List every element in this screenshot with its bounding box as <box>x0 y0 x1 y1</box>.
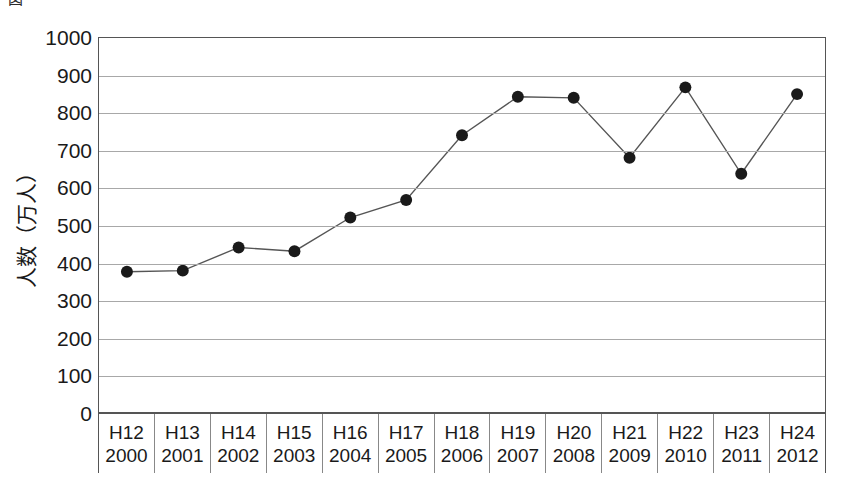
x-axis-era-label: H12 <box>109 422 144 444</box>
x-axis-label-cell: H132001 <box>155 414 211 473</box>
data-point-marker[interactable] <box>456 129 468 141</box>
x-axis-era-label: H23 <box>724 422 759 444</box>
gridline <box>99 188 825 189</box>
data-point-marker[interactable] <box>400 194 412 206</box>
x-axis-era-label: H22 <box>668 422 703 444</box>
y-axis-tick-label: 700 <box>40 140 92 161</box>
data-point-marker[interactable] <box>791 88 803 100</box>
x-axis-year-label: 2001 <box>161 445 203 467</box>
x-axis-label-cell: H232011 <box>714 414 770 473</box>
x-axis-era-label: H16 <box>333 422 368 444</box>
x-axis-label-cell: H122000 <box>99 414 155 473</box>
y-axis-tick-label: 100 <box>40 365 92 386</box>
x-axis-label-cell: H152003 <box>267 414 323 473</box>
y-axis-tick-label: 600 <box>40 177 92 198</box>
x-axis-label-cell: H142002 <box>211 414 267 473</box>
x-axis-era-label: H24 <box>780 422 815 444</box>
x-axis-label-cell: H202008 <box>546 414 602 473</box>
y-axis-title-text: 人数（万人） <box>10 162 40 288</box>
x-axis-label-cell: H182006 <box>435 414 491 473</box>
data-point-marker[interactable] <box>679 81 691 93</box>
figure-caption-strip: 図 <box>0 0 856 12</box>
x-axis-era-label: H14 <box>221 422 256 444</box>
gridline <box>99 113 825 114</box>
x-axis-year-label: 2000 <box>105 445 147 467</box>
data-point-marker[interactable] <box>344 212 356 224</box>
x-axis-label-cell: H172005 <box>379 414 435 473</box>
x-axis-label-cell: H222010 <box>658 414 714 473</box>
gridline <box>99 76 825 77</box>
x-axis-year-label: 2002 <box>217 445 259 467</box>
gridline <box>99 226 825 227</box>
y-axis-title: 人数（万人） <box>10 150 40 300</box>
y-axis-tick-label: 400 <box>40 253 92 274</box>
x-axis-label-cell: H162004 <box>323 414 379 473</box>
x-axis-era-label: H18 <box>445 422 480 444</box>
x-axis-year-label: 2005 <box>385 445 427 467</box>
data-point-marker[interactable] <box>233 241 245 253</box>
gridline <box>99 151 825 152</box>
y-axis-tick-label: 800 <box>40 102 92 123</box>
y-axis-tick-label: 900 <box>40 65 92 86</box>
gridline <box>99 301 825 302</box>
x-axis-label-table: H122000H132001H142002H152003H162004H1720… <box>98 413 826 473</box>
y-axis-tick-label: 300 <box>40 290 92 311</box>
series-line <box>127 87 797 271</box>
x-axis-label-cell: H212009 <box>602 414 658 473</box>
x-axis-year-label: 2004 <box>329 445 371 467</box>
x-axis-year-label: 2003 <box>273 445 315 467</box>
y-axis-tick-label: 200 <box>40 328 92 349</box>
x-axis-era-label: H19 <box>500 422 535 444</box>
x-axis-year-label: 2010 <box>665 445 707 467</box>
line-series <box>99 38 825 412</box>
y-axis-tick-label: 0 <box>40 403 92 424</box>
x-axis-era-label: H20 <box>556 422 591 444</box>
x-axis-year-label: 2011 <box>721 445 762 467</box>
data-point-marker[interactable] <box>288 245 300 257</box>
data-point-marker[interactable] <box>624 152 636 164</box>
x-axis-era-label: H21 <box>612 422 647 444</box>
x-axis-year-label: 2006 <box>441 445 483 467</box>
x-axis-year-label: 2008 <box>553 445 595 467</box>
x-axis-label-cell: H242012 <box>770 414 825 473</box>
x-axis-label-cell: H192007 <box>490 414 546 473</box>
gridline <box>99 376 825 377</box>
data-point-marker[interactable] <box>735 168 747 180</box>
x-axis-year-label: 2009 <box>609 445 651 467</box>
x-axis-era-label: H13 <box>165 422 200 444</box>
figure-container: 図 人数（万人） 1000900800700600500400300200100… <box>0 0 856 488</box>
x-axis-era-label: H17 <box>389 422 424 444</box>
x-axis-year-label: 2012 <box>776 445 818 467</box>
y-axis-tick-labels: 10009008007006005004003002001000 <box>40 0 92 488</box>
plot-area <box>98 37 826 413</box>
x-axis-year-label: 2007 <box>497 445 539 467</box>
x-axis-era-label: H15 <box>277 422 312 444</box>
gridline <box>99 264 825 265</box>
data-point-marker[interactable] <box>568 92 580 104</box>
y-axis-tick-label: 500 <box>40 215 92 236</box>
y-axis-tick-label: 1000 <box>40 27 92 48</box>
data-point-marker[interactable] <box>121 266 133 278</box>
gridline <box>99 339 825 340</box>
data-point-marker[interactable] <box>177 265 189 277</box>
data-point-marker[interactable] <box>512 91 524 103</box>
